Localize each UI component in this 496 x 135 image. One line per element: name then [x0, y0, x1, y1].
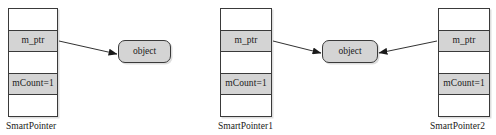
- struct-row-mptr: m_ptr: [9, 31, 57, 53]
- smartpointer2-caption: SmartPointer2: [430, 122, 485, 132]
- object-node-label: object: [133, 47, 156, 57]
- struct-row-blank-mid: [9, 52, 57, 74]
- struct-row-blank-bottom: [9, 95, 57, 116]
- struct-row-blank-mid: [221, 52, 271, 74]
- diagram-canvas: m_ptr mCount=1 SmartPointer object m_ptr…: [0, 0, 496, 135]
- arrow-mptr-to-object: [59, 41, 117, 54]
- struct-row-blank-mid: [439, 52, 489, 74]
- arrow-smartpointer1-to-object: [273, 41, 321, 53]
- smartpointer1-caption: SmartPointer1: [218, 122, 273, 132]
- shared-object-node: object: [322, 40, 378, 63]
- shared-object-node-label: object: [338, 47, 361, 57]
- struct-row-blank-bottom: [439, 95, 489, 116]
- struct-row-blank-top: [9, 9, 57, 31]
- smartpointer-box: m_ptr mCount=1: [8, 8, 58, 117]
- struct-row-mptr: m_ptr: [439, 31, 489, 53]
- struct-row-mptr: m_ptr: [221, 31, 271, 53]
- object-node: object: [118, 40, 171, 63]
- struct-row-mcount: mCount=1: [221, 74, 271, 96]
- struct-row-mcount: mCount=1: [439, 74, 489, 96]
- smartpointer1-box: m_ptr mCount=1: [220, 8, 272, 117]
- struct-row-blank-top: [221, 9, 271, 31]
- struct-row-mcount: mCount=1: [9, 74, 57, 96]
- smartpointer-caption: SmartPointer: [6, 122, 56, 132]
- struct-row-blank-top: [439, 9, 489, 31]
- struct-row-blank-bottom: [221, 95, 271, 116]
- arrow-smartpointer2-to-object: [379, 41, 437, 53]
- smartpointer2-box: m_ptr mCount=1: [438, 8, 490, 117]
